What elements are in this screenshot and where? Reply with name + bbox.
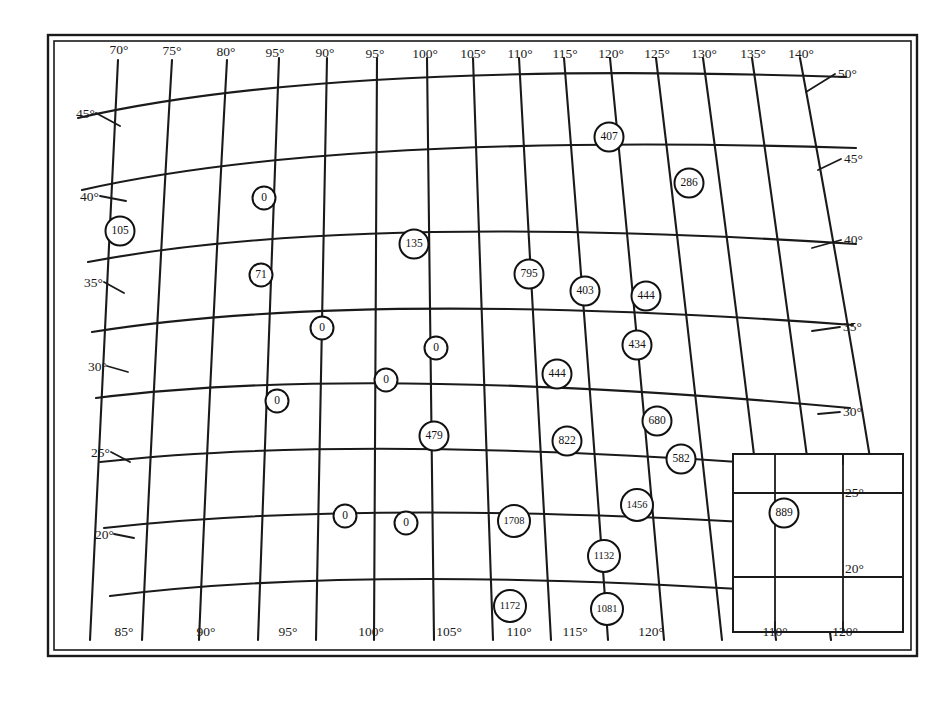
longitude-label-bottom: 110° [506,624,531,639]
inset-longitude-label: 120° [832,624,858,639]
longitude-label-top: 110° [507,46,532,61]
station-marker: 0 [266,390,289,413]
station-marker: 889 [770,499,799,528]
station-marker-label: 0 [342,509,348,521]
longitude-label-top: 95° [366,46,385,61]
station-marker-label: 444 [637,289,655,301]
station-marker: 0 [311,317,334,340]
station-marker: 1132 [588,540,620,572]
latitude-label-right: 50° [838,66,857,81]
station-marker-label: 0 [274,394,280,406]
latitude-label-left: 45° [76,106,95,121]
station-marker-label: 889 [775,506,793,518]
station-marker: 1708 [498,505,530,537]
longitude-label-top: 135° [740,46,766,61]
station-marker: 71 [250,264,273,287]
station-marker: 0 [253,187,276,210]
latitude-label-left: 40° [80,189,99,204]
longitude-labels-top: 70° 75° 80° 95° 90° 95° 100° 105° 110° 1… [110,42,814,61]
station-marker: 407 [595,123,624,152]
station-marker-label: 105 [111,224,129,236]
latitude-label-right: 35° [843,319,862,334]
station-marker: 286 [675,169,704,198]
station-marker: 0 [395,512,418,535]
longitude-label-top: 120° [598,46,624,61]
station-marker-label: 444 [548,367,566,379]
station-markers: 1050711357954034444072860043400444680479… [106,123,799,626]
latitude-label-left: 30° [88,359,107,374]
longitude-label-top: 140° [788,46,814,61]
longitude-label-top: 115° [552,46,577,61]
longitude-label-top: 125° [644,46,670,61]
station-marker-label: 582 [672,452,690,464]
station-marker: 1172 [494,590,526,622]
station-marker: 680 [643,407,672,436]
longitude-label-top: 130° [691,46,717,61]
map-inset [733,454,903,632]
station-marker-label: 822 [558,434,576,446]
station-marker-label: 434 [628,338,646,350]
longitude-label-top: 90° [316,45,335,60]
longitude-label-top: 80° [217,44,236,59]
longitude-label-top: 70° [110,42,129,57]
station-marker: 444 [543,360,572,389]
station-marker-label: 0 [403,516,409,528]
latitude-label-right: 30° [843,404,862,419]
latitude-label-left: 35° [84,275,103,290]
station-marker: 479 [420,422,449,451]
station-marker-label: 795 [520,267,538,279]
station-marker: 135 [400,230,429,259]
station-marker-label: 1456 [627,499,648,510]
longitude-label-bottom: 105° [436,624,462,639]
longitude-label-bottom: 120° [638,624,664,639]
longitude-label-bottom: 95° [279,624,298,639]
latitude-label-right: 40° [844,232,863,247]
longitude-label-bottom: 85° [115,624,134,639]
station-marker-label: 135 [405,237,423,249]
longitude-label-bottom: 90° [197,624,216,639]
station-marker-label: 1172 [500,600,521,611]
longitude-labels-bottom: 85° 90° 95° 100° 105° 110° 115° 120° [115,624,664,639]
station-marker-label: 407 [600,130,618,142]
latitude-label-left: 25° [91,445,110,460]
station-marker-label: 1708 [504,515,525,526]
latitude-label-right: 20° [845,561,864,576]
station-marker: 582 [667,445,696,474]
station-marker: 0 [375,369,398,392]
latitude-label-right: 25° [845,485,864,500]
longitude-label-bottom: 115° [562,624,587,639]
station-marker: 105 [106,217,135,246]
graticule-ticks [96,74,841,538]
station-marker: 1081 [591,593,623,625]
station-marker: 0 [334,505,357,528]
map-figure: 70° 75° 80° 95° 90° 95° 100° 105° 110° 1… [0,0,933,701]
station-marker: 403 [571,277,600,306]
station-marker: 0 [425,337,448,360]
station-marker: 444 [632,282,661,311]
station-marker: 1456 [621,489,653,521]
longitude-label-top: 100° [412,46,438,61]
longitude-label-top: 105° [460,46,486,61]
station-marker: 822 [553,427,582,456]
latitude-label-right: 45° [844,151,863,166]
station-marker-label: 0 [383,373,389,385]
station-marker-label: 1132 [594,550,615,561]
station-marker: 795 [515,260,544,289]
map-canvas: 70° 75° 80° 95° 90° 95° 100° 105° 110° 1… [0,0,933,701]
station-marker-label: 680 [648,414,666,426]
station-marker-label: 0 [433,341,439,353]
longitude-label-top: 75° [163,43,182,58]
station-marker-label: 0 [261,191,267,203]
station-marker: 434 [623,331,652,360]
longitude-label-top: 95° [266,45,285,60]
inset-longitude-label: 110° [762,624,787,639]
station-marker-label: 0 [319,321,325,333]
latitude-label-left: 20° [95,527,114,542]
latitude-labels-left: 45° 40° 35° 30° 25° 20° [76,106,114,542]
station-marker-label: 286 [680,176,698,188]
station-marker-label: 403 [576,284,594,296]
station-marker-label: 479 [425,429,443,441]
station-marker-label: 71 [255,268,267,280]
longitude-label-bottom: 100° [358,624,384,639]
station-marker-label: 1081 [597,603,618,614]
